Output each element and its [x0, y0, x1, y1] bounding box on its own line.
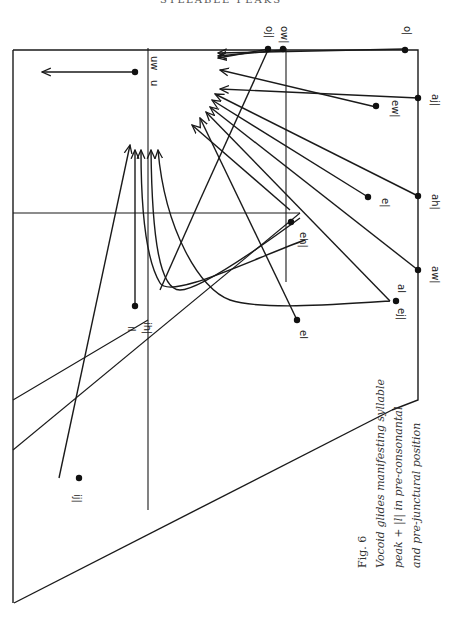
label-oj: oj|	[263, 26, 275, 38]
label-ej: ej|	[395, 308, 407, 320]
label-ih: ih|	[141, 322, 153, 335]
label-uw: uw	[149, 56, 160, 71]
glides-o-series	[160, 49, 404, 290]
label-el: el	[298, 330, 309, 339]
label-aj: aj|	[429, 94, 441, 106]
figure-caption: Fig. 6 Vocoid glides manifesting syllabl…	[356, 378, 423, 568]
label-il: il	[126, 326, 137, 332]
caption-line-3: and pre-junctural position	[410, 423, 423, 568]
label-ij: ij|	[71, 494, 83, 503]
frame	[13, 50, 418, 603]
label-u: u	[149, 80, 160, 86]
guide-lines	[13, 48, 300, 510]
caption-line-1: Vocoid glides manifesting syllable	[374, 378, 387, 568]
label-ow: ow|	[278, 26, 290, 44]
vocoid-glide-diagram: uw u oj| ow| o| ew| aj| ah| e| eh| aw| a…	[0, 0, 455, 618]
label-e: e|	[379, 198, 391, 208]
label-aw: aw|	[429, 266, 441, 284]
diagonal-guide-2	[13, 320, 148, 400]
label-al: al	[396, 284, 407, 293]
label-o: o|	[401, 26, 413, 36]
label-eh: eh|	[297, 232, 309, 248]
label-ah: ah|	[429, 194, 441, 210]
caption-fig-number: Fig. 6	[356, 536, 369, 568]
label-ew: ew|	[389, 100, 401, 118]
glides-front-series	[59, 145, 390, 478]
caption-line-2: peak + |l| in pre-consonantal	[392, 406, 406, 568]
